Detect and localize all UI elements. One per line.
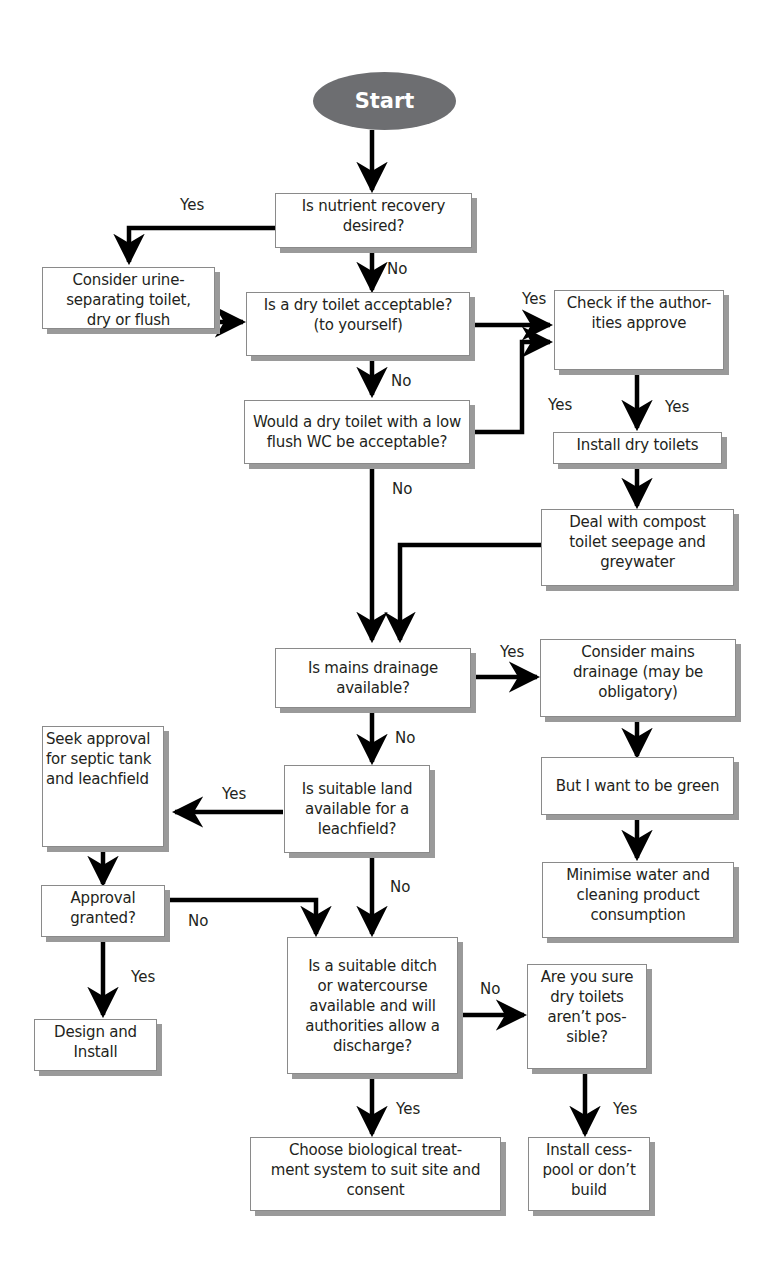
edge-label-sure-yes: Yes [613, 1100, 637, 1118]
node-text: Is mains drainage available? [308, 658, 438, 698]
start-terminal: Start [313, 72, 456, 130]
node-suitable-land: Is suitable land available for a leachfi… [284, 765, 430, 853]
node-approval-granted: Approval granted? [41, 885, 165, 937]
edge-label-nutrient-no: No [387, 260, 407, 278]
node-low-flush: Would a dry toilet with a low flush WC b… [244, 400, 470, 464]
node-compost-seepage: Deal with compost toilet seepage and gre… [541, 509, 734, 586]
node-text: Seek approval for septic tank and leachf… [46, 729, 151, 789]
node-ditch-watercourse: Is a suitable ditch or watercourse avail… [287, 937, 458, 1074]
node-want-green: But I want to be green [541, 757, 734, 815]
node-text: But I want to be green [556, 776, 720, 796]
node-nutrient-recovery: Is nutrient recovery desired? [275, 193, 472, 248]
node-text: Is a suitable ditch or watercourse avail… [305, 956, 440, 1056]
node-text: Consider mains drainage (may be obligato… [573, 642, 703, 702]
node-text: Deal with compost toilet seepage and gre… [569, 512, 706, 572]
edge-label-lowflush-no: No [392, 480, 412, 498]
edge-label-dry-yes: Yes [522, 290, 546, 308]
node-urine-separating: Consider urine- separating toilet, dry o… [42, 267, 215, 329]
arrow-nutrient-yes [129, 228, 275, 262]
edge-label-land-no: No [390, 878, 410, 896]
node-design-install: Design and Install [34, 1019, 157, 1071]
node-text: Choose biological treat- ment system to … [271, 1140, 480, 1200]
node-text: Is suitable land available for a leachfi… [302, 779, 412, 839]
node-text: Would a dry toilet with a low flush WC b… [253, 412, 461, 452]
node-dry-toilet-acceptable: Is a dry toilet acceptable? (to yourself… [246, 292, 470, 356]
flowchart-canvas: Start Is nutrient recovery desired? Cons… [0, 0, 780, 1281]
node-text: Check if the author- ities approve [567, 293, 711, 333]
node-are-you-sure: Are you sure dry toilets aren’t pos- sib… [527, 964, 647, 1069]
node-mains-drainage: Is mains drainage available? [275, 648, 471, 708]
node-consider-mains: Consider mains drainage (may be obligato… [540, 639, 736, 717]
arrow-compost-to-mains [400, 545, 541, 640]
edge-label-ditch-no: No [480, 980, 500, 998]
edge-label-land-yes: Yes [222, 785, 246, 803]
node-biological-treatment: Choose biological treat- ment system to … [250, 1137, 501, 1211]
node-seek-approval: Seek approval for septic tank and leachf… [42, 726, 164, 847]
edge-label-approval-yes: Yes [131, 968, 155, 986]
node-text: Minimise water and cleaning product cons… [566, 865, 710, 925]
node-minimise-water: Minimise water and cleaning product cons… [542, 862, 734, 938]
start-label: Start [355, 89, 415, 113]
node-text: Approval granted? [70, 888, 135, 928]
node-text: Are you sure dry toilets aren’t pos- sib… [541, 967, 633, 1047]
edge-label-mains-yes: Yes [500, 643, 524, 661]
node-text: Consider urine- separating toilet, dry o… [66, 270, 191, 330]
edge-label-dry-no: No [391, 372, 411, 390]
node-install-dry-toilets: Install dry toilets [553, 432, 722, 464]
edge-label-lowflush-yes: Yes [548, 396, 572, 414]
node-text: Is nutrient recovery desired? [302, 196, 445, 236]
edge-label-approval-no: No [188, 912, 208, 930]
edge-label-mains-no: No [395, 729, 415, 747]
edge-label-ditch-yes: Yes [396, 1100, 420, 1118]
node-text: Install cess- pool or don’t build [542, 1140, 635, 1200]
node-text: Design and Install [54, 1022, 137, 1062]
edge-label-nutrient-yes: Yes [180, 196, 204, 214]
node-text: Install dry toilets [577, 435, 699, 455]
node-install-cesspool: Install cess- pool or don’t build [528, 1137, 650, 1211]
node-check-authorities: Check if the author- ities approve [554, 290, 724, 370]
node-text: Is a dry toilet acceptable? (to yourself… [264, 295, 453, 335]
arrow-lowflush-yes [470, 342, 550, 432]
edge-label-authorities-yes: Yes [665, 398, 689, 416]
